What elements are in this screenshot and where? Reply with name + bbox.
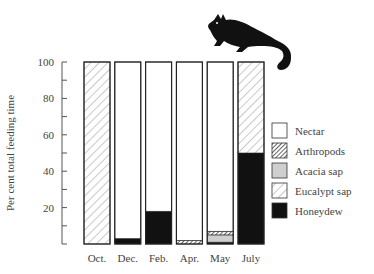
y-tick-label: 60 [43,129,55,141]
bar-segment-eucalypt-sap [84,62,110,244]
y-tick-label: 80 [43,92,55,104]
bar-segment-nectar [146,62,172,211]
bar-group-july [238,62,264,244]
legend-swatch [272,163,287,178]
legend-label: Arthropods [295,145,345,157]
bar-segment-nectar [115,62,141,239]
y-tick-label: 20 [43,202,55,214]
stacked-bar-chart: 20406080100 Oct.Dec.Feb.Apr.MayJuly Per … [0,0,374,274]
bar-segment-nectar [207,62,233,231]
legend-swatch [272,143,287,158]
legend: NectarArthropodsAcacia sapEucalypt sapHo… [272,123,352,218]
bar-group-dec [115,62,141,244]
x-tick-label: July [242,252,261,264]
legend-item-arthropods: Arthropods [272,143,345,158]
x-tick-label: Feb. [149,252,169,264]
bar-segment-nectar [176,62,202,240]
bar-group-may [207,62,233,244]
x-axis-labels: Oct.Dec.Feb.Apr.MayJuly [88,252,261,264]
legend-label: Nectar [295,125,325,137]
bar-segment-honeydew [115,239,141,244]
legend-item-honeydew: Honeydew [272,203,343,218]
x-tick-label: May [210,252,231,264]
legend-item-acacia-sap: Acacia sap [272,163,343,178]
x-tick-label: Oct. [88,252,107,264]
legend-label: Eucalypt sap [295,185,352,197]
legend-label: Acacia sap [295,165,343,177]
y-axis: 20406080100 [38,56,68,244]
bars [84,62,264,244]
bar-segment-honeydew [238,153,264,244]
legend-item-eucalypt-sap: Eucalypt sap [272,183,352,198]
bar-segment-acacia-sap [207,235,233,242]
legend-label: Honeydew [295,205,343,217]
legend-swatch [272,123,287,138]
x-tick-label: Dec. [118,252,139,264]
bar-group-feb [146,62,172,244]
bar-segment-honeydew [146,211,172,244]
y-tick-label: 40 [43,165,55,177]
y-tick-label: 100 [38,56,55,68]
bar-group-apr [176,62,202,244]
x-tick-label: Apr. [180,252,200,264]
y-axis-label: Per cent total feeding time [4,95,16,211]
legend-swatch [272,183,287,198]
legend-swatch [272,203,287,218]
bar-segment-arthropods [207,231,233,235]
bar-segment-eucalypt-sap [238,62,264,153]
bar-group-oct [84,62,110,244]
legend-item-nectar: Nectar [272,123,325,138]
